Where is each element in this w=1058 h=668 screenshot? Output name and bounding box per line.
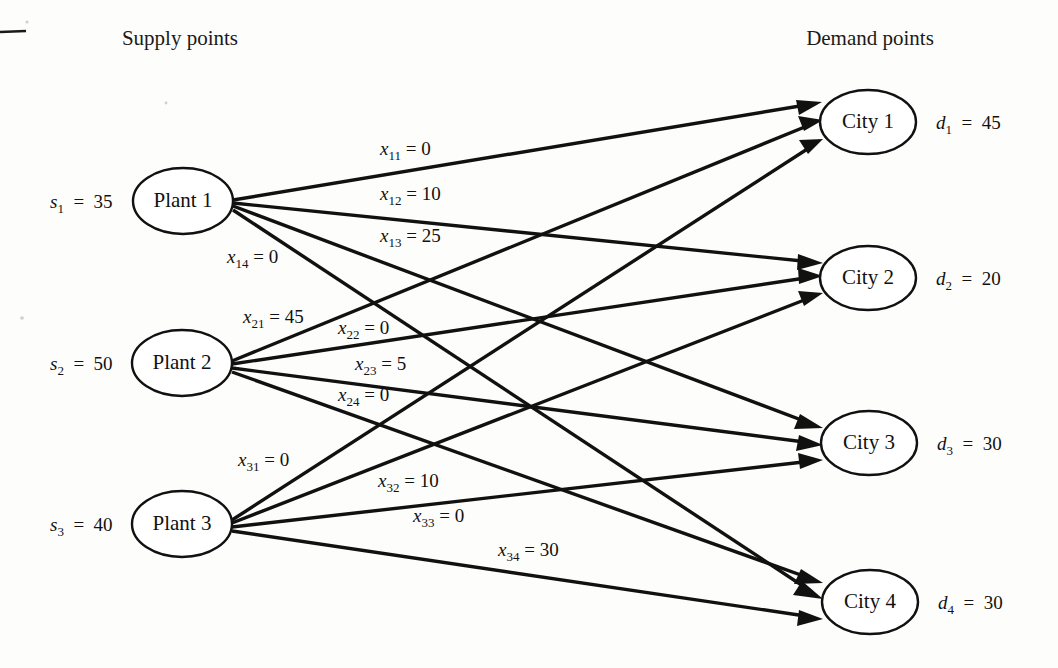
crop-mark-dash	[0, 31, 26, 32]
edge-label-x23: x23 = 5	[354, 353, 406, 378]
node-label-city-3: City 3	[843, 430, 895, 454]
supply-label-s1: s1 = 35	[50, 191, 113, 216]
edge-label-x11: x11 = 0	[379, 138, 431, 163]
node-city-4[interactable]: City 4	[822, 570, 918, 634]
node-label-city-2: City 2	[842, 265, 894, 289]
node-label-city-4: City 4	[844, 589, 896, 613]
edge-x12[interactable]	[233, 203, 823, 270]
scan-speck	[25, 20, 28, 23]
edge-label-x12: x12 = 10	[379, 183, 441, 208]
supply-node-layer: Plant 1 Plant 2 Plant 3	[132, 168, 233, 557]
edge-label-x31: x31 = 0	[237, 449, 289, 474]
demand-label-d2: d2 = 20	[936, 268, 1001, 293]
edge-label-x13: x13 = 25	[379, 225, 441, 250]
node-city-1[interactable]: City 1	[820, 90, 916, 154]
edge-label-x24: x24 = 0	[337, 384, 389, 409]
edge-label-layer: x11 = 0 x12 = 10 x13 = 25 x14 = 0 x21 = …	[226, 138, 559, 564]
edge-label-x33: x33 = 0	[412, 505, 464, 530]
edge-label-x32: x32 = 10	[377, 470, 439, 495]
edge-x31[interactable]	[232, 139, 823, 520]
edge-label-x22: x22 = 0	[337, 317, 389, 342]
edge-x11[interactable]	[233, 100, 822, 200]
demand-value-layer: d1 = 45 d2 = 20 d3 = 30 d4 = 30	[936, 112, 1003, 617]
demand-label-d3: d3 = 30	[937, 433, 1002, 458]
supply-points-header: Supply points	[122, 26, 238, 50]
edge-label-x34: x34 = 30	[497, 539, 559, 564]
transportation-network-diagram: Supply points Demand points	[0, 0, 1058, 668]
supply-label-s2: s2 = 50	[50, 353, 113, 378]
node-label-city-1: City 1	[842, 109, 894, 133]
edge-label-x21: x21 = 45	[242, 306, 304, 331]
edge-label-x14: x14 = 0	[226, 246, 278, 271]
node-plant-2[interactable]: Plant 2	[132, 330, 232, 396]
node-plant-3[interactable]: Plant 3	[132, 491, 232, 557]
node-label-plant-1: Plant 1	[154, 188, 213, 212]
node-label-plant-3: Plant 3	[153, 511, 212, 535]
demand-node-layer: City 1 City 2 City 3 City 4	[820, 90, 918, 634]
scan-speck	[20, 316, 24, 320]
supply-label-s3: s3 = 40	[50, 514, 113, 539]
demand-points-header: Demand points	[806, 26, 934, 50]
node-city-3[interactable]: City 3	[821, 411, 917, 475]
node-plant-1[interactable]: Plant 1	[133, 168, 233, 234]
demand-label-d1: d1 = 45	[936, 112, 1001, 137]
supply-value-layer: s1 = 35 s2 = 50 s3 = 40	[50, 191, 113, 539]
scan-speck	[165, 102, 168, 105]
demand-label-d4: d4 = 30	[938, 592, 1003, 617]
node-label-plant-2: Plant 2	[153, 350, 212, 374]
node-city-2[interactable]: City 2	[820, 246, 916, 310]
figure-canvas: Supply points Demand points	[0, 0, 1058, 668]
